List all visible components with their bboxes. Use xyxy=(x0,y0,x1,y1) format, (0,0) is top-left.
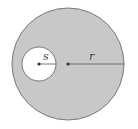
outer-center-point xyxy=(66,62,69,65)
inner-center-point xyxy=(37,62,40,65)
inner-radius-label: s xyxy=(43,50,49,63)
outer-radius-label: r xyxy=(89,50,95,63)
circle-diagram: s r xyxy=(0,0,138,129)
